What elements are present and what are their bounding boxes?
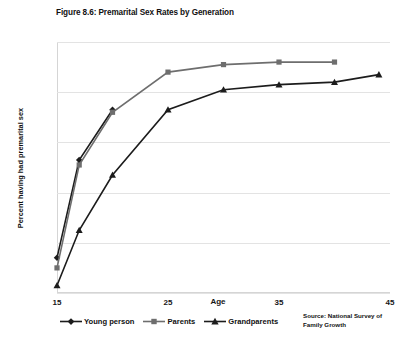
legend-item-label: Grandparents	[228, 317, 278, 326]
legend-item-label: Parents	[167, 317, 195, 326]
series-parents	[54, 59, 337, 270]
legend-item-grandparents[interactable]: Grandparents	[204, 316, 278, 327]
data-point-square	[165, 70, 170, 75]
series-line	[57, 75, 379, 286]
data-point-square	[221, 62, 226, 67]
legend-square-icon	[143, 316, 165, 327]
legend-item-young-person[interactable]: Young person	[60, 316, 134, 327]
x-tick-label: 15	[53, 298, 62, 307]
legend-item-parents[interactable]: Parents	[143, 316, 195, 327]
series-grandparents	[53, 71, 382, 288]
data-point-square	[276, 59, 281, 64]
legend: Young personParentsGrandparents	[60, 316, 278, 327]
source-note-line2: Family Growth	[303, 321, 403, 330]
x-axis-title: Age	[210, 297, 225, 306]
series-line	[57, 110, 113, 258]
legend-triangle-icon	[204, 316, 226, 327]
source-note: Source: National Survey of Family Growth	[303, 312, 403, 330]
x-tick-label: 25	[164, 298, 173, 307]
data-point-square	[77, 162, 82, 167]
legend-item-label: Young person	[84, 317, 134, 326]
source-note-line1: Source: National Survey of	[303, 312, 403, 321]
series-line	[57, 62, 335, 268]
data-point-square	[332, 59, 337, 64]
data-point-square	[110, 110, 115, 115]
x-tick-label: 35	[275, 298, 284, 307]
data-point-triangle	[53, 282, 60, 288]
x-tick-label: 45	[386, 298, 395, 307]
data-point-square	[54, 265, 59, 270]
legend-diamond-icon	[60, 316, 82, 327]
figure-container: Figure 8.6: Premarital Sex Rates by Gene…	[0, 0, 403, 354]
